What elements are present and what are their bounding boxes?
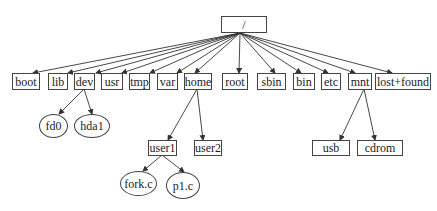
node-bin: bin [293,73,315,90]
node-fork-c: fork.c [120,171,157,196]
node-dev: dev [74,73,95,90]
node-cdrom: cdrom [357,140,403,156]
node-etc: etc [321,73,341,90]
node-mnt: mnt [348,73,372,90]
node-p1-c: p1.c [166,172,200,199]
node-var: var [157,73,178,90]
node-user2: user2 [194,140,222,156]
tree-edges [0,0,437,211]
node-fd0: fd0 [39,114,68,138]
node-root: root [222,73,248,90]
node-user1: user1 [148,140,177,156]
node-home: home [184,73,212,90]
node-boot: boot [12,73,40,90]
node-usb: usb [312,140,350,156]
node-sbin: sbin [257,73,286,90]
node-lib: lib [48,73,68,90]
node-hda1: hda1 [74,114,110,138]
root-directory-node: / [221,16,267,33]
node-usr: usr [101,73,123,90]
node-lost-found: lost+found [375,73,431,90]
node-tmp: tmp [129,73,150,90]
